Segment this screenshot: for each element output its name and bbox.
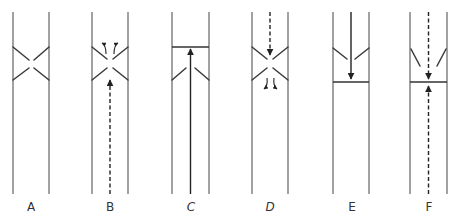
panel-label: E (348, 200, 356, 214)
panel-label: A (27, 200, 36, 214)
valve-flap (92, 68, 107, 80)
curl-arrow-icon (274, 78, 277, 89)
valve-flap (273, 68, 288, 80)
valve-flap (195, 68, 209, 80)
panel-e: E (333, 12, 369, 214)
valve-flap (252, 47, 267, 59)
valve-flap (252, 68, 267, 80)
curl-arrow-icon (114, 43, 118, 54)
valve-flap (437, 49, 446, 66)
panel-a: A (13, 12, 49, 214)
valve-diagram: A B C D (0, 0, 455, 218)
curl-arrow-icon (102, 43, 106, 54)
valve-flap (172, 68, 186, 80)
valve-flap (411, 49, 420, 66)
panel-f: F (410, 12, 447, 214)
valve-flap (113, 68, 128, 80)
valve-flap (355, 48, 369, 59)
valve-flap (92, 47, 107, 59)
valve-flap (34, 47, 49, 60)
valve-flap (333, 48, 347, 59)
curl-arrow-icon (264, 78, 267, 89)
panel-label: D (265, 200, 274, 214)
panel-label: C (187, 200, 196, 214)
valve-flap (113, 47, 128, 59)
panel-c: C (172, 12, 209, 214)
valve-flap (34, 68, 49, 80)
panel-label: F (426, 200, 433, 214)
panel-d: D (252, 12, 288, 214)
valve-flap (13, 68, 29, 80)
panel-label: B (106, 200, 114, 214)
panel-b: B (92, 12, 128, 214)
valve-flap (273, 47, 288, 59)
valve-flap (13, 47, 29, 60)
